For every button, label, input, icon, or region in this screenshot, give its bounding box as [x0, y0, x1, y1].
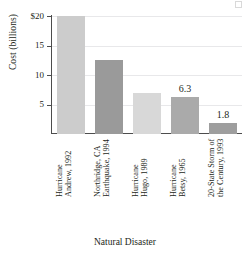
category-label-line: 20-State Storm of — [207, 105, 216, 197]
category-label-line: the Century, 1993 — [216, 105, 225, 197]
scan-artifact — [235, 1, 242, 8]
category-label: HurricaneAndrew, 1992 — [55, 139, 89, 231]
category-label: 20-State Storm ofthe Century, 1993 — [207, 139, 241, 231]
category-label-line: Hugo, 1989 — [140, 105, 149, 197]
y-tick-label: 5 — [4, 100, 44, 109]
category-label-line: Andrew, 1992 — [64, 105, 73, 197]
category-label: Northridge, CAEarthquake, 1994 — [93, 139, 127, 231]
category-label-line: Betsy, 1965 — [178, 105, 187, 197]
category-label: HurricaneBetsy, 1965 — [169, 139, 203, 231]
category-label-line: Hurricane — [55, 105, 64, 197]
category-label-line: Hurricane — [131, 105, 140, 197]
category-label-line: Northridge, CA — [93, 105, 102, 197]
category-label-line: Earthquake, 1994 — [102, 105, 111, 197]
bar-value-label: 6.3 — [165, 84, 205, 94]
y-tick-label: $20 — [4, 12, 44, 21]
bar-chart-figure: Cost (billions) $2015105 6.31.8 Hurrican… — [0, 0, 250, 256]
x-axis-title: Natural Disaster — [0, 237, 250, 247]
category-label: HurricaneHugo, 1989 — [131, 139, 165, 231]
y-tick-label: 15 — [4, 41, 44, 50]
y-tick-label: 10 — [4, 71, 44, 80]
category-label-line: Hurricane — [169, 105, 178, 197]
